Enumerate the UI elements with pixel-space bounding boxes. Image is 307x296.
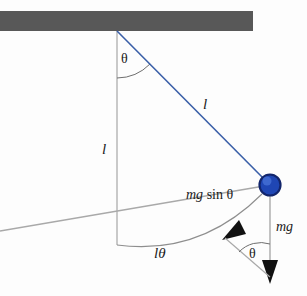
mg-sin-theta-label-fn: sin θ xyxy=(203,187,233,202)
string-length-label: l xyxy=(203,97,207,112)
pendulum-diagram: θ l l lθ mg sin θ mg θ xyxy=(0,0,307,296)
pendulum-string xyxy=(117,31,269,184)
mg-label: mg xyxy=(276,220,293,234)
theta-bottom-label: θ xyxy=(249,247,256,261)
resolution-leg-line xyxy=(225,238,270,277)
support-bar xyxy=(0,11,253,31)
theta-top-label: θ xyxy=(121,52,128,66)
mg-sin-theta-label-var: mg xyxy=(186,187,203,202)
vertical-length-label: l xyxy=(102,142,106,157)
arc-length-label: lθ xyxy=(154,246,166,261)
pendulum-bob-highlight xyxy=(263,177,272,186)
mg-sin-theta-label: mg sin θ xyxy=(186,188,233,202)
theta-arc-top xyxy=(117,64,150,78)
